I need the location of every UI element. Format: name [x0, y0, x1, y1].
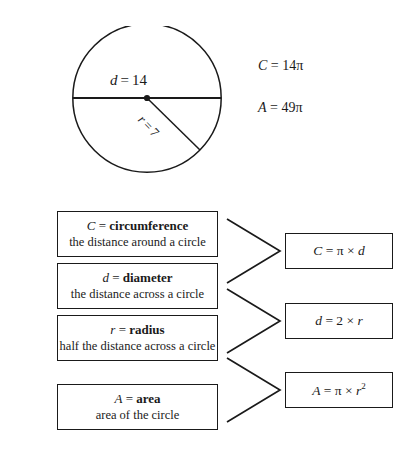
- worksheet-page: d = 14 r = 7 C = 14π A = 49π C = circumf…: [0, 0, 412, 464]
- definition-description-area: area of the circle: [58, 407, 217, 424]
- diameter-label: d = 14: [110, 72, 147, 89]
- definition-box-circumference: C = circumference the distance around a …: [57, 211, 218, 257]
- circle-diagram: [70, 26, 224, 174]
- definition-symbol: C: [87, 218, 96, 233]
- definition-term-circumference: C = circumference: [58, 217, 217, 234]
- center-point-dot: [144, 95, 150, 101]
- definition-description-circumference: the distance around a circle: [58, 234, 217, 251]
- given-circumference: C = 14π: [258, 58, 303, 74]
- definition-box-radius: r = radius half the distance across a ci…: [57, 315, 218, 361]
- formula-box-area: A = π × r2: [285, 372, 393, 408]
- formula-text: A = π × r2: [312, 381, 366, 399]
- circle-figure-svg: [70, 26, 224, 174]
- chevron-connector-icon: [226, 218, 282, 284]
- definition-symbol: A: [114, 391, 122, 406]
- chevron-connector-icon: [226, 288, 282, 354]
- definition-term-label: circumference: [109, 218, 188, 233]
- chevron-connector-icon: [226, 357, 282, 423]
- definition-description-radius: half the distance across a circle: [58, 338, 217, 355]
- given-area: A = 49π: [258, 100, 303, 116]
- definition-term-radius: r = radius: [58, 321, 217, 338]
- formula-box-diameter: d = 2 × r: [285, 303, 393, 339]
- definition-term-diameter: d = diameter: [58, 269, 217, 286]
- formula-text: d = 2 × r: [315, 313, 363, 329]
- formula-box-circumference: C = π × d: [285, 233, 393, 269]
- definition-box-diameter: d = diameter the distance across a circl…: [57, 263, 218, 309]
- definition-term-area: A = area: [58, 390, 217, 407]
- definition-term-label: diameter: [123, 270, 173, 285]
- definition-symbol: d: [102, 270, 109, 285]
- diameter-value: 14: [132, 72, 147, 88]
- definition-term-label: radius: [129, 322, 164, 337]
- definition-symbol: r: [110, 322, 115, 337]
- definition-box-area: A = area area of the circle: [57, 384, 218, 430]
- formula-text: C = π × d: [313, 243, 364, 259]
- definition-description-diameter: the distance across a circle: [58, 286, 217, 303]
- definition-term-label: area: [136, 391, 160, 406]
